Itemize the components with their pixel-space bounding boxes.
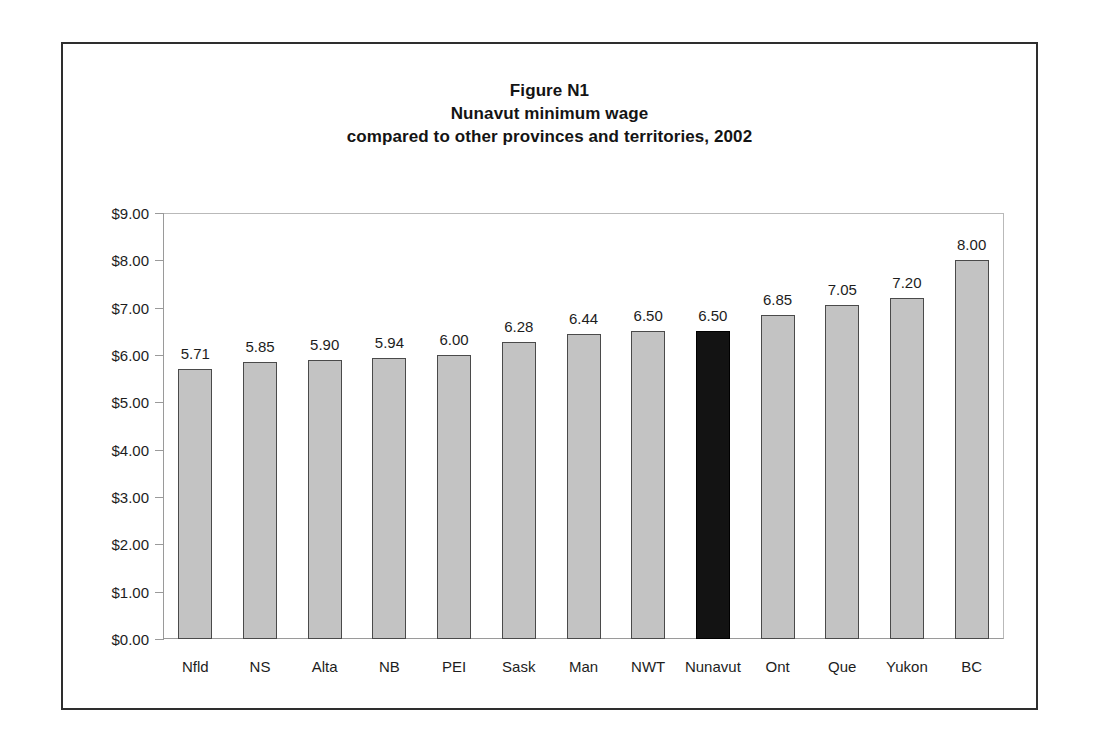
y-axis-tick [155, 592, 163, 593]
figure-frame: Figure N1 Nunavut minimum wage compared … [61, 42, 1038, 710]
bar [567, 334, 601, 639]
y-axis-tick [155, 260, 163, 261]
y-axis-tick-label: $8.00 [77, 252, 149, 269]
y-axis-tick [155, 402, 163, 403]
bar [372, 358, 406, 639]
y-axis [163, 213, 164, 640]
bar [631, 331, 665, 639]
y-axis-tick [155, 639, 163, 640]
bar [308, 360, 342, 639]
bar-chart: $0.00$1.00$2.00$3.00$4.00$5.00$6.00$7.00… [63, 44, 1036, 708]
bar-value-label: 7.20 [867, 274, 947, 291]
y-axis-tick-label: $6.00 [77, 347, 149, 364]
y-axis-tick [155, 497, 163, 498]
y-axis-tick [155, 308, 163, 309]
bar [243, 362, 277, 639]
y-axis-tick-label: $1.00 [77, 583, 149, 600]
y-axis-tick [155, 450, 163, 451]
bar [178, 369, 212, 639]
bar-highlight-nunavut [696, 331, 730, 639]
y-axis-tick-label: $3.00 [77, 489, 149, 506]
bar [955, 260, 989, 639]
y-axis-tick-label: $5.00 [77, 394, 149, 411]
y-axis-tick-label: $4.00 [77, 441, 149, 458]
bar-value-label: 6.50 [673, 307, 753, 324]
y-axis-tick-label: $2.00 [77, 536, 149, 553]
bar [502, 342, 536, 639]
y-axis-tick-label: $9.00 [77, 205, 149, 222]
y-axis-tick-label: $7.00 [77, 299, 149, 316]
y-axis-tick [155, 544, 163, 545]
bar [890, 298, 924, 639]
bar [437, 355, 471, 639]
x-axis-category-label: BC [927, 658, 1017, 675]
bar [761, 315, 795, 639]
y-axis-tick-label: $0.00 [77, 631, 149, 648]
bar [825, 305, 859, 639]
bar-value-label: 8.00 [932, 236, 1012, 253]
y-axis-tick [155, 213, 163, 214]
